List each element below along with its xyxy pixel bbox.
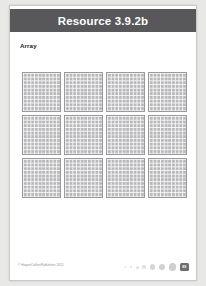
- pager-dot-row: 89: [125, 260, 189, 274]
- section-heading-array: Array: [20, 42, 37, 49]
- copyright-notice: © HarperCollinsPublishers 2015: [18, 263, 64, 267]
- pager-dot-icon: [159, 264, 165, 270]
- pager-dot-icon: [136, 266, 139, 269]
- page-title: Resource 3.9.2b: [58, 15, 148, 27]
- array-grid-square[interactable]: [64, 115, 103, 155]
- pager-dot-icon: [150, 264, 155, 269]
- array-grid-square[interactable]: [22, 158, 61, 198]
- array-grid-square[interactable]: [106, 158, 145, 198]
- resource-page-sheet: Resource 3.9.2b Array © HarperCollinsPub…: [9, 5, 197, 281]
- array-grid-square[interactable]: [106, 115, 145, 155]
- array-grid-square[interactable]: [148, 72, 187, 112]
- pager-dot-icon: [130, 266, 132, 268]
- page-number-badge: 89: [180, 263, 190, 271]
- resource-header-banner: Resource 3.9.2b: [10, 9, 196, 32]
- pager-dot-icon: [169, 263, 176, 270]
- array-grid-square[interactable]: [22, 72, 61, 112]
- pager-dot-icon: [142, 265, 146, 269]
- array-grid-board: [22, 72, 186, 198]
- array-grid-square[interactable]: [64, 72, 103, 112]
- array-grid-square[interactable]: [22, 115, 61, 155]
- page-footer: © HarperCollinsPublishers 2015 89: [10, 260, 196, 274]
- array-grid-square[interactable]: [148, 158, 187, 198]
- array-grid-square[interactable]: [64, 158, 103, 198]
- array-grid-square[interactable]: [148, 115, 187, 155]
- array-grid-square[interactable]: [106, 72, 145, 112]
- pager-dot-icon: [125, 266, 127, 268]
